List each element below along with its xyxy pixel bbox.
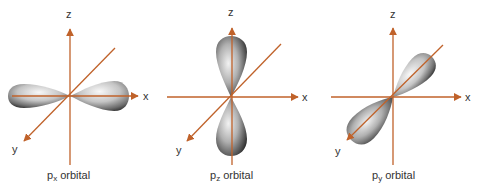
x-axis-label: x <box>302 91 308 103</box>
z-axis-label: z <box>66 8 72 20</box>
panel-pz: z x y <box>167 6 308 165</box>
caption-rest: orbital <box>220 169 253 181</box>
y-axis-label: y <box>176 144 182 156</box>
panel-py: z x y <box>331 8 471 165</box>
caption-pz-orbital: pz orbital <box>210 169 253 183</box>
y-axis <box>347 45 443 140</box>
caption-rest: orbital <box>57 169 90 181</box>
p-orbitals-diagram: z x y z x y z x y <box>0 0 481 190</box>
z-axis-label: z <box>228 6 234 18</box>
y-axis-label: y <box>12 143 18 155</box>
z-axis-label: z <box>390 8 396 20</box>
x-axis-label: x <box>465 91 471 103</box>
y-axis-label: y <box>335 145 341 157</box>
caption-px-orbital: px orbital <box>47 169 90 183</box>
x-axis-label: x <box>143 90 149 102</box>
caption-py-orbital: py orbital <box>372 169 415 183</box>
panel-px: z x y <box>8 8 149 165</box>
caption-rest: orbital <box>382 169 415 181</box>
